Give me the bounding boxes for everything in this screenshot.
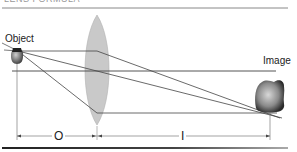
object-label: Object xyxy=(5,34,34,44)
object-distance-label: O xyxy=(52,130,65,142)
object-figure xyxy=(11,48,23,64)
bottom-rule xyxy=(2,147,288,149)
thin-lens-diagram: LENS FORMULA xyxy=(0,0,297,152)
ray-focal xyxy=(18,51,277,113)
image-distance-label: I xyxy=(179,130,186,142)
ray-center xyxy=(18,51,282,118)
image-figure xyxy=(255,80,284,112)
convex-lens xyxy=(85,15,109,125)
optics-drawing xyxy=(0,0,297,152)
image-label: Image xyxy=(263,56,291,66)
cropped-heading: LENS FORMULA xyxy=(4,0,80,4)
